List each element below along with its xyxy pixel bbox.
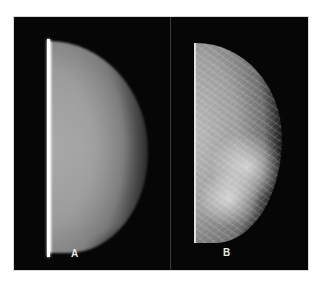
panel-b: B — [171, 17, 308, 270]
chest-wall-edge-b — [194, 43, 196, 243]
panel-label-b: B — [223, 248, 230, 258]
shadow-b — [211, 192, 281, 247]
figure-frame: A B — [13, 16, 309, 271]
panel-a: A — [14, 17, 170, 270]
panel-label-a: A — [71, 249, 78, 259]
shadow-a — [48, 187, 138, 257]
